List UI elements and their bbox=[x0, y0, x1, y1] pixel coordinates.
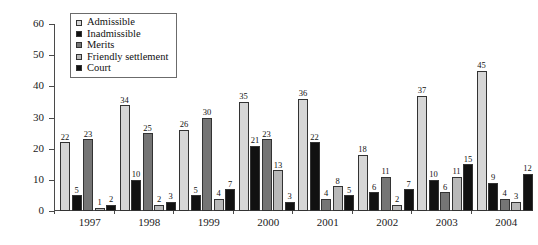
legend-swatch-icon bbox=[76, 54, 82, 60]
bar-value-label: 12 bbox=[516, 164, 538, 173]
bar bbox=[463, 164, 473, 211]
bar bbox=[523, 174, 533, 211]
bar bbox=[214, 199, 224, 211]
bar-group: 3622485 bbox=[298, 24, 358, 211]
y-tick-label: 50 bbox=[10, 49, 44, 60]
legend-item: Merits bbox=[76, 40, 168, 51]
bar bbox=[321, 199, 331, 211]
legend-item-label: Merits bbox=[87, 40, 114, 51]
bar bbox=[166, 202, 176, 211]
y-tick-label: 30 bbox=[10, 112, 44, 123]
bar-group: 2653047 bbox=[179, 24, 239, 211]
bar-value-label: 35 bbox=[232, 92, 256, 101]
bar bbox=[179, 130, 189, 211]
bar-value-label: 8 bbox=[326, 177, 350, 186]
bar-group: 4594312 bbox=[477, 24, 537, 211]
bar bbox=[440, 192, 450, 211]
bar-value-label: 30 bbox=[195, 108, 219, 117]
bar bbox=[72, 195, 82, 211]
bar bbox=[106, 205, 116, 211]
legend-item-label: Court bbox=[87, 63, 111, 74]
legend-item-label: Friendly settlement bbox=[87, 52, 168, 63]
bar-value-label: 22 bbox=[303, 133, 327, 142]
bar bbox=[131, 180, 141, 211]
bar bbox=[452, 177, 462, 211]
bar bbox=[298, 99, 308, 211]
bar bbox=[404, 189, 414, 211]
bar-value-label: 25 bbox=[136, 124, 160, 133]
legend-swatch-icon bbox=[76, 42, 82, 48]
bar bbox=[262, 139, 272, 211]
bar bbox=[250, 146, 260, 211]
bar bbox=[120, 105, 130, 211]
y-tick-label: 0 bbox=[10, 205, 44, 216]
bar-value-label: 26 bbox=[172, 120, 196, 129]
bar bbox=[60, 142, 70, 211]
legend-item: Friendly settlement bbox=[76, 51, 168, 62]
bar bbox=[285, 202, 295, 211]
bar-value-label: 36 bbox=[291, 89, 315, 98]
legend-swatch-icon bbox=[76, 31, 82, 37]
legend-item-label: Inadmissible bbox=[87, 29, 141, 40]
bar-value-label: 22 bbox=[53, 133, 77, 142]
y-tick-label: 20 bbox=[10, 143, 44, 154]
legend-swatch-icon bbox=[76, 65, 82, 71]
bar bbox=[369, 192, 379, 211]
legend-item: Admissible bbox=[76, 17, 168, 28]
bar bbox=[239, 102, 249, 211]
bar-value-label: 18 bbox=[351, 145, 375, 154]
bar bbox=[310, 142, 320, 211]
bar-value-label: 11 bbox=[374, 167, 398, 176]
bar-value-label: 34 bbox=[113, 96, 137, 105]
bar-group: 1861127 bbox=[358, 24, 418, 211]
y-tick-label: 60 bbox=[10, 18, 44, 29]
bar bbox=[511, 202, 521, 211]
bar-group: 371061115 bbox=[417, 24, 477, 211]
bar bbox=[95, 208, 105, 211]
bar bbox=[344, 195, 354, 211]
bar bbox=[225, 189, 235, 211]
bar-value-label: 45 bbox=[470, 61, 494, 70]
bar-chart: 0102030405060 22523123410252326530473521… bbox=[0, 0, 538, 245]
legend-swatch-icon bbox=[76, 20, 82, 26]
bar-value-label: 9 bbox=[481, 173, 505, 182]
bar bbox=[381, 177, 391, 211]
y-tick-label: 40 bbox=[10, 80, 44, 91]
legend-item: Inadmissible bbox=[76, 28, 168, 39]
bar bbox=[191, 195, 201, 211]
bar-value-label: 10 bbox=[422, 170, 446, 179]
legend-item: Court bbox=[76, 63, 168, 74]
chart-legend: AdmissibleInadmissibleMeritsFriendly set… bbox=[70, 13, 177, 78]
bar-value-label: 13 bbox=[266, 161, 290, 170]
bar bbox=[154, 205, 164, 211]
bar-group: 352123133 bbox=[239, 24, 299, 211]
bar bbox=[477, 71, 487, 211]
y-tick-label: 10 bbox=[10, 174, 44, 185]
x-tick-label: 2004 bbox=[471, 216, 538, 228]
bar-value-label: 37 bbox=[410, 86, 434, 95]
bar bbox=[392, 205, 402, 211]
bar-value-label: 23 bbox=[255, 130, 279, 139]
legend-item-label: Admissible bbox=[87, 17, 135, 28]
bar bbox=[273, 170, 283, 211]
bar-value-label: 23 bbox=[76, 130, 100, 139]
bar bbox=[417, 96, 427, 211]
